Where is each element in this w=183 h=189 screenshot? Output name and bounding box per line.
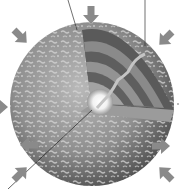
arrow-right-icon bbox=[0, 99, 8, 115]
arrow-down-right-icon bbox=[8, 24, 32, 48]
marker-dot bbox=[177, 103, 179, 105]
arrow-up-right-icon bbox=[8, 162, 32, 186]
star-cutaway-diagram bbox=[0, 0, 183, 189]
arrow-down-icon bbox=[83, 6, 99, 24]
arrow-down-left-icon bbox=[154, 26, 178, 50]
arrow-up-left-icon bbox=[154, 162, 178, 186]
